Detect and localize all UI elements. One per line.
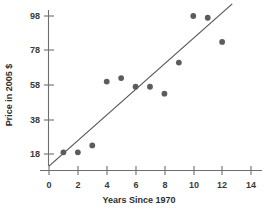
- y-tick-label-98: 98: [30, 11, 40, 21]
- y-tick-label-18: 18: [30, 149, 40, 159]
- y-tick-labels: 98 78 58 38 18: [30, 11, 40, 159]
- data-point: [176, 60, 182, 66]
- x-tick-label-2: 2: [75, 180, 80, 190]
- scatter-plot-figure: 0 2 4 6 8 10 12 14 98 78 58 38 18 Years …: [0, 0, 271, 210]
- x-tick-labels: 0 2 4 6 8 10 12 14: [46, 180, 256, 190]
- plot-canvas: 0 2 4 6 8 10 12 14 98 78 58 38 18 Years …: [0, 0, 271, 210]
- trend-line: [49, 4, 232, 166]
- data-point: [89, 142, 95, 148]
- x-tick-label-10: 10: [189, 180, 199, 190]
- data-point: [147, 84, 153, 90]
- data-point: [104, 79, 110, 85]
- data-point: [133, 84, 139, 90]
- x-tick-label-8: 8: [162, 180, 167, 190]
- x-tick-label-6: 6: [133, 180, 138, 190]
- data-point: [205, 15, 211, 21]
- data-point: [118, 75, 124, 81]
- data-point: [219, 39, 225, 45]
- y-tick-label-78: 78: [30, 45, 40, 55]
- x-tick-label-14: 14: [246, 180, 256, 190]
- x-axis-title: Years Since 1970: [102, 195, 175, 205]
- x-tick-label-0: 0: [46, 180, 51, 190]
- y-axis-title: Price in 2005 $: [4, 64, 14, 127]
- x-tick-label-4: 4: [104, 180, 109, 190]
- data-point: [75, 149, 81, 155]
- data-point: [162, 91, 168, 97]
- y-tick-label-38: 38: [30, 115, 40, 125]
- x-tick-label-12: 12: [217, 180, 227, 190]
- y-tick-label-58: 58: [30, 80, 40, 90]
- data-point: [61, 149, 67, 155]
- data-point: [190, 13, 196, 19]
